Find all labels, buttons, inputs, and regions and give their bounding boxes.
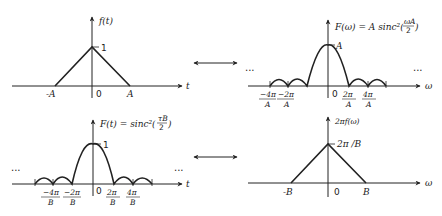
- tick-neg-b: -B: [283, 187, 293, 197]
- tick-neg4pi: −4π B: [41, 188, 60, 207]
- svg-text:): ): [167, 119, 172, 129]
- peak-label: 2π /B: [336, 139, 362, 149]
- panel-bottom-right: 2πf(ω) 2π /B ω -B 0 B: [248, 117, 433, 197]
- svg-text:4π: 4π: [126, 188, 138, 197]
- svg-text:−4π: −4π: [43, 188, 60, 197]
- x-axis-label: ω: [425, 81, 433, 91]
- tick-2pi: 2π B: [106, 188, 120, 207]
- y-axis-label: F(ω) = A sinc²(: [334, 22, 404, 32]
- svg-text:A: A: [283, 100, 290, 109]
- tick-zero: 0: [96, 89, 102, 99]
- tick-neg4pi: −4π A: [259, 90, 277, 109]
- tick-2pi: 2π A: [342, 90, 356, 109]
- svg-text:A: A: [264, 100, 271, 109]
- y-axis-label: F(t) = sinc²(: [99, 119, 156, 129]
- svg-text:2π: 2π: [106, 188, 118, 197]
- ellipsis-right: ...: [174, 162, 184, 173]
- peak-label: 1: [101, 43, 107, 53]
- svg-text:B: B: [69, 198, 76, 207]
- svg-text:2π: 2π: [342, 90, 354, 99]
- x-axis-label: ω: [425, 178, 433, 188]
- x-axis-label: t: [186, 81, 190, 91]
- svg-text:−4π: −4π: [260, 90, 277, 99]
- tick-neg-a: -A: [46, 89, 56, 99]
- svg-text:A: A: [345, 100, 352, 109]
- svg-text:−2π: −2π: [278, 90, 295, 99]
- tick-neg2pi: −2π A: [277, 90, 295, 109]
- svg-text:): ): [414, 22, 419, 32]
- tick-b: B: [362, 187, 370, 197]
- ellipsis-left: ...: [11, 162, 21, 173]
- svg-text:B: B: [129, 198, 136, 207]
- ellipsis-left: ...: [245, 62, 255, 73]
- panel-top-left: f(t) 1 t -A 0 A: [12, 16, 190, 99]
- svg-text:A: A: [365, 100, 372, 109]
- ellipsis-right: ...: [413, 62, 423, 73]
- svg-text:4π: 4π: [362, 90, 374, 99]
- y-axis-label: f(t): [98, 16, 113, 26]
- svg-text:−2π: −2π: [64, 188, 81, 197]
- tick-zero: 0: [332, 89, 338, 99]
- frac-num: τB: [158, 114, 168, 123]
- tick-zero: 0: [334, 187, 340, 197]
- tick-zero: 0: [96, 186, 102, 196]
- tick-4pi: 4π B: [126, 188, 140, 207]
- tick-4pi: 4π A: [362, 90, 376, 109]
- x-axis-label: t: [186, 179, 190, 189]
- svg-text:B: B: [109, 198, 116, 207]
- peak-label: 1: [103, 140, 109, 150]
- svg-text:B: B: [47, 198, 54, 207]
- y-axis-label: 2πf(ω): [334, 117, 360, 126]
- frac-den: 2: [159, 123, 164, 132]
- panel-top-right: A F(ω) = A sinc²( ωA 2 ) ω ... ... 0 −4π…: [245, 17, 433, 109]
- panel-bottom-left: 1 F(t) = sinc²( τB 2 ) t ... ... 0 −4π B…: [11, 114, 190, 207]
- peak-label: A: [335, 41, 343, 51]
- tick-a: A: [126, 89, 134, 99]
- frac-den: 2: [406, 26, 411, 35]
- fourier-pair-diagram: f(t) 1 t -A 0 A A F(ω) = A sinc²( ωA 2 )…: [0, 0, 442, 216]
- tick-neg2pi: −2π B: [63, 188, 81, 207]
- diagram-canvas: f(t) 1 t -A 0 A A F(ω) = A sinc²( ωA 2 )…: [0, 0, 442, 216]
